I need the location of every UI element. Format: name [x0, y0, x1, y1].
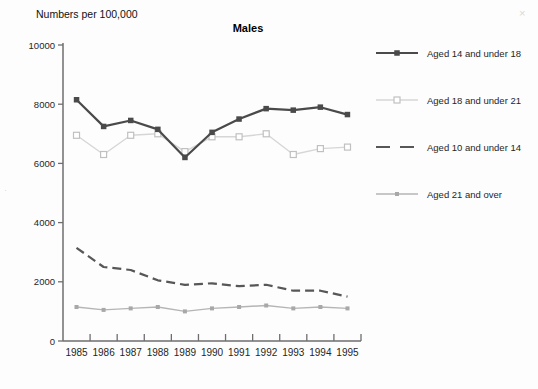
scan-artifact: · — [4, 185, 7, 195]
series-marker-3 — [183, 309, 187, 313]
legend-item-aged-21-and-over: Aged 21 and over — [374, 187, 521, 201]
series-marker-1 — [101, 152, 107, 158]
legend-line-sample — [374, 47, 420, 59]
x-tick-label: 1989 — [174, 347, 197, 358]
legend-line-sample — [374, 141, 420, 153]
series-marker-1 — [74, 132, 80, 138]
series-marker-0 — [345, 112, 351, 118]
series-marker-0 — [101, 124, 107, 130]
y-tick-label: 8000 — [34, 99, 55, 110]
x-tick-label: 1995 — [336, 347, 359, 358]
series-marker-0 — [182, 155, 188, 161]
series-marker-0 — [236, 116, 242, 122]
series-marker-0 — [128, 118, 134, 124]
x-tick-label: 1993 — [282, 347, 305, 358]
series-marker-3 — [210, 306, 214, 310]
series-marker-3 — [346, 306, 350, 310]
legend-item-aged-14-and-under-18: Aged 14 and under 18 — [374, 46, 521, 60]
series-marker-3 — [156, 305, 160, 309]
series-marker-0 — [74, 97, 80, 103]
legend: Aged 14 and under 18Aged 18 and under 21… — [374, 46, 521, 234]
legend-line-sample — [374, 94, 420, 106]
legend-label: Aged 21 and over — [427, 189, 502, 200]
series-marker-3 — [102, 308, 106, 312]
series-line-0 — [77, 100, 348, 158]
series-marker-0 — [155, 127, 161, 133]
x-tick-label: 1994 — [309, 347, 332, 358]
series-marker-1 — [345, 144, 351, 150]
legend-label: Aged 10 and under 14 — [427, 142, 521, 153]
series-marker-1 — [290, 152, 296, 158]
series-marker-3 — [264, 304, 268, 308]
series-marker-3 — [291, 306, 295, 310]
series-marker-3 — [318, 305, 322, 309]
x-tick-label: 1987 — [120, 347, 143, 358]
series-marker-1 — [263, 131, 269, 137]
series-marker-3 — [129, 306, 133, 310]
series-marker-0 — [318, 104, 324, 110]
series-marker-1 — [236, 134, 242, 140]
legend-line-sample — [374, 188, 420, 200]
y-tick-label: 10000 — [29, 40, 55, 51]
legend-label: Aged 18 and under 21 — [427, 95, 521, 106]
legend-item-aged-10-and-under-14: Aged 10 and under 14 — [374, 140, 521, 154]
series-marker-0 — [209, 130, 215, 136]
series-line-2 — [77, 248, 348, 297]
x-tick-label: 1992 — [255, 347, 278, 358]
scan-artifact: × — [519, 7, 525, 19]
series-marker-3 — [75, 305, 79, 309]
series-marker-0 — [263, 106, 269, 112]
y-tick-label: 0 — [50, 336, 55, 347]
y-tick-label: 2000 — [34, 276, 55, 287]
y-tick-label: 6000 — [34, 158, 55, 169]
legend-item-aged-18-and-under-21: Aged 18 and under 21 — [374, 93, 521, 107]
series-marker-0 — [291, 107, 297, 113]
series-marker-1 — [182, 149, 188, 155]
legend-label: Aged 14 and under 18 — [427, 48, 521, 59]
series-marker-3 — [237, 305, 241, 309]
x-tick-label: 1986 — [93, 347, 116, 358]
y-tick-label: 4000 — [34, 217, 55, 228]
x-tick-label: 1988 — [147, 347, 170, 358]
x-tick-label: 1990 — [201, 347, 224, 358]
x-tick-label: 1991 — [228, 347, 251, 358]
series-marker-1 — [128, 132, 134, 138]
x-tick-label: 1985 — [65, 347, 88, 358]
series-marker-1 — [317, 146, 323, 152]
